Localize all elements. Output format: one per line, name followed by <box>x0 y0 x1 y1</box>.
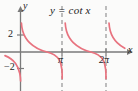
x-tick-label-pi: π <box>58 55 63 65</box>
x-axis-label: x <box>128 45 132 55</box>
y-tick-label-negative-2: −2 <box>4 62 15 72</box>
y-axis-label: y <box>23 1 27 11</box>
equation-label: y = cot x <box>50 5 91 16</box>
cotangent-graph-figure: y = cot x y x 2 −2 π 2π <box>0 0 138 91</box>
x-tick-label-2pi: 2π <box>99 55 109 65</box>
y-tick-label-2: 2 <box>8 29 13 39</box>
